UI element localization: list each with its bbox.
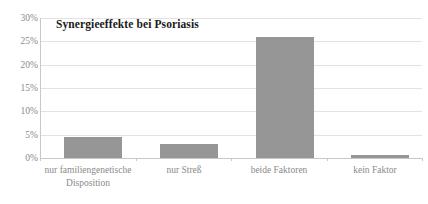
y-tick-0: 0% xyxy=(4,153,38,163)
gridline-15 xyxy=(40,88,422,89)
x-label-line-2: Disposition xyxy=(40,177,136,190)
chart-title: Synergieeffekte bei Psoriasis xyxy=(56,18,199,30)
x-label-nur-stress: nur Streß xyxy=(136,164,232,177)
x-tickmark-2 xyxy=(231,158,232,161)
x-label-kein-faktor: kein Faktor xyxy=(327,164,423,177)
gridline-20 xyxy=(40,65,422,66)
gridline-10 xyxy=(40,111,422,112)
x-tickmark-4 xyxy=(422,158,423,161)
y-tick-25: 25% xyxy=(4,36,38,46)
bar-chart: 30% 25% 20% 15% 10% 5% 0% nur familienge… xyxy=(0,0,428,204)
x-tickmark-3 xyxy=(327,158,328,161)
gridline-5 xyxy=(40,135,422,136)
y-tick-20: 20% xyxy=(4,60,38,70)
bar-nur-familiengenetische-disposition xyxy=(64,137,122,158)
bar-beide-faktoren xyxy=(256,37,314,158)
gridline-25 xyxy=(40,41,422,42)
x-label-line-1: nur familiengenetische xyxy=(40,164,136,177)
bar-nur-stress xyxy=(160,144,218,158)
y-tick-10: 10% xyxy=(4,106,38,116)
y-axis-tick-labels: 30% 25% 20% 15% 10% 5% 0% xyxy=(0,0,38,140)
y-tick-15: 15% xyxy=(4,83,38,93)
y-axis-line xyxy=(40,18,41,159)
y-tick-30: 30% xyxy=(4,13,38,23)
y-tick-5: 5% xyxy=(4,130,38,140)
x-tickmark-1 xyxy=(136,158,137,161)
bar-kein-faktor xyxy=(351,155,409,158)
plot-area xyxy=(40,18,422,158)
x-tickmark-0 xyxy=(40,158,41,161)
x-label-beide-faktoren: beide Faktoren xyxy=(231,164,327,177)
x-label-nur-familiengenetische-disposition: nur familiengenetische Disposition xyxy=(40,164,136,190)
